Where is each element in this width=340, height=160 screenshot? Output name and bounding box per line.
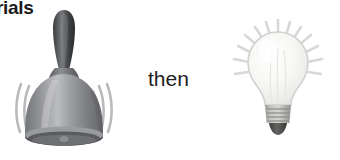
hand-bell-icon — [8, 4, 120, 156]
bell-clapper — [60, 136, 69, 142]
bulb-glass — [248, 32, 308, 105]
sequence-connector-label: then — [148, 68, 189, 90]
bell-handle — [53, 10, 75, 70]
bulb-screw-base — [265, 105, 291, 135]
light-bulb-icon — [232, 18, 324, 142]
illustration-canvas: rials — [0, 0, 340, 160]
